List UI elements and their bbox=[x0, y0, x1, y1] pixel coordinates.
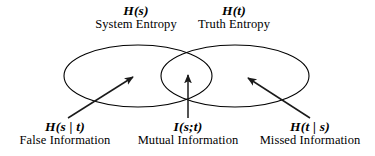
description-system-entropy: System Entropy bbox=[95, 18, 177, 31]
math-label-false-information: H(s | t) bbox=[20, 120, 111, 134]
math-label-missed-information: H(t | s) bbox=[260, 120, 361, 134]
description-truth-entropy: Truth Entropy bbox=[198, 18, 270, 31]
description-mutual-information: Mutual Information bbox=[138, 134, 239, 147]
label-false-information: H(s | t) False Information bbox=[20, 120, 111, 147]
math-label-truth-entropy: H(t) bbox=[198, 4, 270, 18]
ellipse-system-entropy bbox=[64, 45, 212, 107]
label-truth-entropy: H(t) Truth Entropy bbox=[198, 4, 270, 31]
math-label-system-entropy: H(s) bbox=[95, 4, 177, 18]
label-system-entropy: H(s) System Entropy bbox=[95, 4, 177, 31]
math-label-mutual-information: I(s;t) bbox=[138, 120, 239, 134]
label-missed-information: H(t | s) Missed Information bbox=[260, 120, 361, 147]
label-mutual-information: I(s;t) Mutual Information bbox=[138, 120, 239, 147]
ellipse-truth-entropy bbox=[161, 45, 309, 107]
arrow-false-information bbox=[68, 77, 133, 118]
description-false-information: False Information bbox=[20, 134, 111, 147]
arrow-missed-information bbox=[248, 78, 310, 118]
venn-diagram-canvas: H(s) System Entropy H(t) Truth Entropy H… bbox=[0, 0, 375, 156]
description-missed-information: Missed Information bbox=[260, 134, 361, 147]
